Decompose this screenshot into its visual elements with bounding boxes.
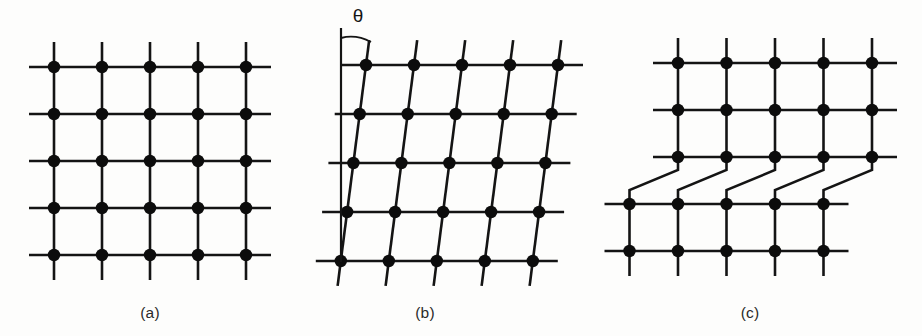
lattice-node xyxy=(491,157,503,169)
lattice-node xyxy=(456,59,468,71)
panel-a-caption: (a) xyxy=(140,304,160,321)
lattice-node xyxy=(866,104,878,116)
lattice-node xyxy=(817,57,829,69)
lattice-node xyxy=(533,206,545,218)
lattice-node xyxy=(48,108,60,120)
lattice-node xyxy=(347,157,359,169)
lattice-node xyxy=(96,202,108,214)
lattice-node xyxy=(672,57,684,69)
lattice-node xyxy=(144,155,156,167)
lattice-node xyxy=(769,57,781,69)
lattice-node xyxy=(817,151,829,163)
lattice-node xyxy=(539,157,551,169)
lattice-node xyxy=(96,108,108,120)
lattice-node xyxy=(769,198,781,210)
lattice-node xyxy=(192,155,204,167)
lattice-node xyxy=(817,104,829,116)
lattice-node xyxy=(720,104,732,116)
lattice-node xyxy=(96,155,108,167)
lattice-node xyxy=(96,249,108,261)
lattice-node xyxy=(402,108,414,120)
lattice-node xyxy=(144,108,156,120)
lattice-node xyxy=(450,108,462,120)
lattice-node xyxy=(443,157,455,169)
lattice-node xyxy=(389,206,401,218)
panel-c-caption: (c) xyxy=(741,304,760,321)
lattice-node xyxy=(720,151,732,163)
lattice-node xyxy=(48,155,60,167)
lattice-node xyxy=(240,249,252,261)
lattice-node xyxy=(144,249,156,261)
lattice-node xyxy=(817,198,829,210)
lattice-node xyxy=(720,198,732,210)
lattice-node xyxy=(672,104,684,116)
lattice-node xyxy=(48,202,60,214)
lattice-node xyxy=(672,151,684,163)
lattice-node xyxy=(546,108,558,120)
lattice-node xyxy=(383,255,395,267)
theta-angle-label: θ xyxy=(353,5,364,26)
lattice-node xyxy=(48,61,60,73)
lattice-node xyxy=(395,157,407,169)
lattice-node xyxy=(623,245,635,257)
lattice-node xyxy=(360,59,372,71)
lattice-node xyxy=(240,202,252,214)
lattice-node xyxy=(341,206,353,218)
lattice-node xyxy=(769,245,781,257)
lattice-node xyxy=(672,198,684,210)
lattice-node xyxy=(720,57,732,69)
lattice-node xyxy=(437,206,449,218)
lattice-node xyxy=(144,61,156,73)
lattice-node xyxy=(192,249,204,261)
lattice-node xyxy=(769,104,781,116)
lattice-node xyxy=(817,245,829,257)
figure-background xyxy=(0,0,922,336)
lattice-node xyxy=(240,155,252,167)
lattice-node xyxy=(672,245,684,257)
lattice-node xyxy=(527,255,539,267)
lattice-node xyxy=(866,57,878,69)
lattice-node xyxy=(354,108,366,120)
lattice-node xyxy=(485,206,497,218)
lattice-node xyxy=(720,245,732,257)
lattice-node xyxy=(240,61,252,73)
lattice-node xyxy=(479,255,491,267)
lattice-node xyxy=(431,255,443,267)
lattice-node xyxy=(192,108,204,120)
panel-b-caption: (b) xyxy=(415,304,435,321)
lattice-node xyxy=(504,59,516,71)
lattice-node xyxy=(240,108,252,120)
lattice-node xyxy=(192,61,204,73)
lattice-node xyxy=(623,198,635,210)
lattice-node xyxy=(769,151,781,163)
lattice-node xyxy=(192,202,204,214)
lattice-figure-svg: (a) (b) (c) θ xyxy=(0,0,922,336)
lattice-node xyxy=(408,59,420,71)
lattice-node xyxy=(498,108,510,120)
lattice-node xyxy=(96,61,108,73)
lattice-figure: (a) (b) (c) θ xyxy=(0,0,922,336)
lattice-node xyxy=(552,59,564,71)
lattice-node xyxy=(48,249,60,261)
lattice-node xyxy=(866,151,878,163)
lattice-node xyxy=(144,202,156,214)
